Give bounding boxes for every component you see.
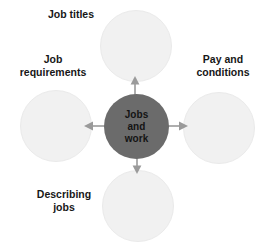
node-label-pay-and-conditions-line-2: conditions — [186, 66, 260, 79]
jobs-and-work-diagram: Jobs and work Job titles Pay and conditi… — [0, 0, 264, 246]
node-circle-jobs-and-work[interactable]: Jobs and work — [104, 94, 169, 159]
node-label-pay-and-conditions: Pay and conditions — [186, 53, 260, 79]
node-label-job-requirements: Job requirements — [10, 53, 96, 79]
node-label-job-titles: Job titles — [36, 8, 106, 21]
center-label-line-1: Jobs — [125, 109, 149, 121]
node-label-job-requirements-line-1: Job — [10, 53, 96, 66]
node-label-describing-jobs-line-2: jobs — [22, 201, 106, 214]
node-circle-job-titles[interactable] — [100, 10, 172, 82]
node-label-job-requirements-line-2: requirements — [10, 66, 96, 79]
node-label-describing-jobs: Describing jobs — [22, 188, 106, 214]
node-circle-job-requirements[interactable] — [20, 90, 92, 162]
node-circle-describing-jobs[interactable] — [102, 170, 174, 242]
node-circle-pay-and-conditions[interactable] — [183, 92, 255, 164]
node-label-pay-and-conditions-line-1: Pay and — [186, 53, 260, 66]
center-label-line-3: work — [125, 133, 149, 145]
center-label-line-2: and — [127, 121, 145, 133]
node-label-describing-jobs-line-1: Describing — [22, 188, 106, 201]
node-label-job-titles-line-1: Job titles — [36, 8, 106, 21]
